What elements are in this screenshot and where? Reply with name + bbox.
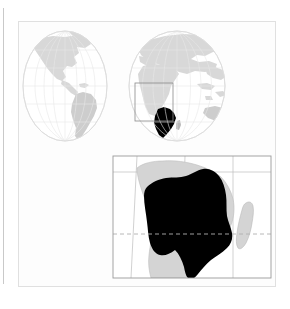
map-panel: [18, 21, 276, 287]
left-margin-rule: [3, 8, 4, 284]
figure-title: World locator map with southern Africa i…: [0, 0, 1, 1]
figure-root: World locator map with southern Africa i…: [0, 0, 290, 309]
figure-description: Two-hemisphere world globes with a highl…: [0, 0, 1, 1]
inset-svg: [19, 22, 277, 288]
inset-layer: [19, 22, 275, 286]
